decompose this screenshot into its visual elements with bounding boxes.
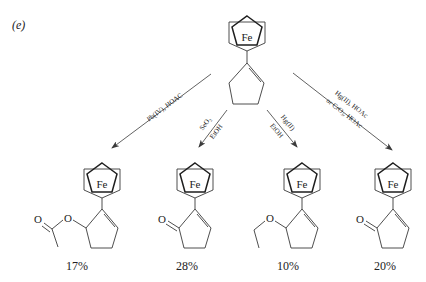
fe-label: Fe [242, 31, 253, 43]
conditions-pb: Pb(IV), HOAC [145, 91, 184, 123]
product-enone: Fe O [158, 163, 213, 248]
fe-label: Fe [190, 178, 201, 190]
product-ether: Fe O [254, 163, 320, 248]
bond [52, 220, 63, 229]
reaction-scheme: (e) Fe Pb(IV), HOAC SeO₂ EtOH Hg(II) EtO… [0, 0, 426, 282]
bond [275, 221, 286, 228]
cyclopentenone-ring [377, 209, 409, 248]
conditions-se-line1: SeO₂ [198, 115, 213, 132]
yield-label: 28% [176, 259, 198, 273]
oxygen-label: O [266, 212, 274, 224]
bond [254, 230, 259, 248]
fe-label: Fe [388, 178, 399, 190]
oxygen-label: O [64, 212, 72, 224]
double-bond [104, 214, 115, 227]
fe-label: Fe [297, 178, 308, 190]
cyclopentene-ring [86, 209, 118, 248]
bond [254, 221, 265, 230]
bond [73, 220, 86, 228]
yield-label: 17% [66, 259, 88, 273]
cyclopentenone-ring [179, 209, 211, 248]
carbonyl-oxygen-label: O [356, 213, 364, 225]
carbonyl-oxygen-label: O [158, 213, 166, 225]
product-enone-2: Fe O [356, 163, 411, 248]
cyclopentene-ring [286, 209, 318, 248]
conditions-se-line2: EtOH [208, 123, 224, 141]
figure-label: (e) [12, 18, 25, 32]
fe-label: Fe [97, 178, 108, 190]
double-bond [395, 214, 406, 227]
product-acetate: Fe O O [34, 163, 120, 248]
carbonyl-bond [366, 221, 377, 228]
carbonyl-bond [166, 224, 177, 231]
double-bond [197, 214, 208, 227]
carbonyl-bond [364, 224, 375, 231]
conditions-hg-line2: EtOH [268, 122, 285, 140]
double-bond [249, 68, 261, 82]
double-bond [304, 214, 315, 227]
yield-label: 10% [277, 259, 299, 273]
carbonyl-oxygen-label: O [34, 213, 42, 225]
cyclopentene-ring [229, 63, 264, 104]
starting-material: Fe [229, 16, 265, 104]
bond [52, 229, 58, 247]
yield-label: 20% [374, 259, 396, 273]
carbonyl-bond [168, 221, 179, 228]
